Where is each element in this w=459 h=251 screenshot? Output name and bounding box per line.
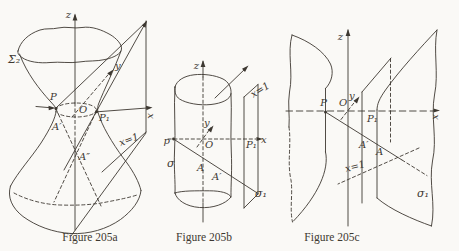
label-p: p xyxy=(164,135,171,146)
left-sheet-top-cut xyxy=(292,35,332,89)
plane-arrow-line xyxy=(215,68,246,98)
p-pointer-line xyxy=(36,107,50,108)
label-A-dprime: A″ xyxy=(78,151,90,162)
hyperboloid-left-silhouette xyxy=(11,54,57,186)
label-z: z xyxy=(65,9,72,20)
point-p xyxy=(172,138,175,141)
point-P xyxy=(324,111,327,114)
point-P xyxy=(55,107,58,110)
scanned-textbook-figure: z Σ₂ y x P O P₁ A′ A″ x=1 Figure 205a xyxy=(0,0,459,251)
right-sheet-bottom-cut xyxy=(377,198,432,226)
label-A-prime: A′ xyxy=(51,121,62,132)
z-axis-arrowhead xyxy=(201,60,206,67)
x-axis-arrowhead xyxy=(434,108,441,112)
label-z: z xyxy=(337,31,344,42)
label-plane-x1: x=1 xyxy=(344,158,367,174)
label-A-prime: A′ xyxy=(358,139,369,150)
label-O: O xyxy=(205,139,213,150)
caption-205b: Figure 205b xyxy=(176,231,232,244)
label-P1: P₁ xyxy=(98,112,110,123)
z-axis-arrowhead xyxy=(73,14,78,21)
label-y: y xyxy=(348,90,355,101)
plane-edge-through-P xyxy=(56,22,146,108)
hyperboloid-bottom-back-rim xyxy=(14,193,139,205)
left-sheet-wavy-edge-hidden xyxy=(289,127,293,222)
label-x: x xyxy=(431,114,442,120)
cylinder-right-edge xyxy=(231,94,232,198)
label-sigma: σ xyxy=(167,157,175,170)
z-axis-arrowhead xyxy=(346,29,351,36)
x-axis-arrowhead xyxy=(146,106,153,111)
left-sheet-bottom-cut xyxy=(294,152,327,221)
figure-205c: z x y P O P₁ A′ A x=1 σ₁ σ₁ Figure 205c xyxy=(255,29,442,244)
right-sheet-wavy-edge xyxy=(431,30,437,226)
plane-edge-through-P1 xyxy=(64,22,146,170)
label-x: x xyxy=(146,113,157,119)
figure-205a: z Σ₂ y x P O P₁ A′ A″ x=1 Figure 205a xyxy=(7,9,157,244)
label-sigma1-right: σ₁ xyxy=(417,187,429,200)
label-O: O xyxy=(79,104,87,115)
y-axis xyxy=(72,73,110,118)
plane-top-edge xyxy=(362,58,391,92)
label-P: P xyxy=(319,97,327,108)
label-sigma2: Σ₂ xyxy=(7,53,20,66)
caption-205a: Figure 205a xyxy=(62,231,117,244)
figure-205b: z y x p O P₁ σ A A′ x=1 Figure 205b xyxy=(164,60,272,244)
label-O: O xyxy=(339,97,347,108)
label-P1: P₁ xyxy=(245,139,257,150)
label-A: A xyxy=(196,162,204,173)
label-P1: P₁ xyxy=(366,113,378,124)
label-A-prime: A′ xyxy=(211,171,222,182)
left-sheet-wavy-edge xyxy=(289,35,292,127)
label-y: y xyxy=(203,117,210,128)
caption-205c: Figure 205c xyxy=(304,231,359,244)
diagonal-line-hidden xyxy=(402,160,427,176)
right-sheet-top-cut xyxy=(377,30,437,110)
label-P: P xyxy=(49,91,57,102)
label-z: z xyxy=(193,60,200,71)
label-y: y xyxy=(114,60,121,71)
neck-ellipse xyxy=(56,103,97,117)
label-x: x xyxy=(261,134,267,145)
label-A: A xyxy=(375,146,383,157)
label-plane-x1: x=1 xyxy=(248,80,271,100)
point-P1 xyxy=(95,110,98,113)
figure-205-canvas: z Σ₂ y x P O P₁ A′ A″ x=1 Figure 205a xyxy=(0,0,459,251)
label-sigma1-left: σ₁ xyxy=(255,187,267,200)
hyperboloid-top-rim xyxy=(18,27,122,63)
generator-line xyxy=(71,133,146,236)
